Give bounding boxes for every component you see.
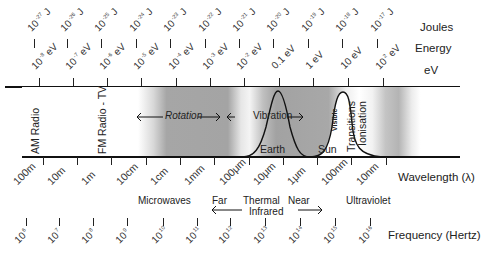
wavelength-tick-label: 1cm [148,164,171,187]
wavelength-tick [180,157,181,165]
frequency-tick-label: 1016 [356,224,377,245]
wavelength-tick [77,157,78,165]
ev-tick [107,78,108,86]
wavelength-tick [317,157,318,165]
ev-tick [176,78,177,86]
frequency-tick-label: 1015 [321,224,342,245]
wavelength-tick [43,157,44,165]
joules-tick-label: 10-24 J [127,6,155,34]
wavelength-tick-label: 1μm [285,164,308,187]
fm-radio-tv-label: FM Radio - TV [96,86,108,154]
rotation-label: Rotation [165,110,202,121]
ev-tick [383,78,384,86]
ionisation-label: Ionisation [356,101,368,146]
joules-tick-label: 10-21 J [230,6,258,34]
frequency-tick [197,218,198,226]
wavelength-tick-label: 10nm [354,160,381,187]
wavelength-tick [386,157,387,165]
frequency-tick [59,218,60,226]
ev-tick [244,78,245,86]
joules-tick-label: 10-26 J [58,6,86,34]
wavelength-tick-label: 10m [45,164,68,187]
frequency-tick-label: 109 [113,227,132,246]
frequency-tick-label: 1012 [216,224,237,245]
sun-label: Sun [318,143,337,155]
frequency-tick-label: 108 [79,227,98,246]
ev-tick [39,78,40,86]
ev-tick-label: 1 eV [303,49,325,71]
energy-axis-label: Energy [415,42,451,54]
frequency-axis-label: Frequency (Hertz) [388,229,481,241]
ev-axis-label: eV [424,64,438,76]
wavelength-tick-label: 100m [11,160,38,187]
joules-tick [308,39,309,48]
wavelength-tick-label: 100μm [217,156,248,187]
spectrum-band [22,87,460,157]
wavelength-tick-label: 1m [79,168,98,187]
frequency-tick [127,218,128,226]
spectrum-shading [22,87,460,157]
ev-tick [348,78,349,86]
frequency-tick [26,218,27,226]
am-radio-label: AM Radio [29,108,41,154]
joules-tick [67,39,68,48]
joules-tick-label: 10-27 J [25,6,53,34]
wavelength-tick-label: 1mm [182,162,207,187]
wavelength-tick-label: 100nm [319,156,350,187]
microwaves-label: Microwaves [138,195,191,206]
wavelength-tick [351,157,352,165]
wavelength-tick-label: 10μm [251,160,278,187]
ev-tick [313,78,314,86]
joules-tick-label: 10-20 J [264,6,292,34]
ev-tick [73,78,74,86]
joules-tick [342,39,343,48]
visible-label: Visible [331,109,338,131]
frequency-tick-label: 1014 [286,224,307,245]
joules-tick [101,39,102,48]
joules-tick [205,39,206,48]
frequency-tick [93,218,94,226]
joules-tick-label: 10-22 J [196,6,224,34]
joules-axis-label: Joules [420,21,453,33]
ev-tick [210,78,211,86]
wavelength-tick [283,157,284,165]
ev-tick [141,78,142,86]
joules-tick-label: 10-23 J [161,6,189,34]
infrared-arrow [210,205,330,215]
ultraviolet-label: Ultraviolet [346,195,390,206]
vibration-label: Vibration [253,110,292,121]
wavelength-axis-label: Wavelength (λ) [398,171,475,183]
frequency-tick-label: 106 [12,227,31,246]
joules-tick [34,39,35,48]
wavelength-tick [214,157,215,165]
ev-tick [279,78,280,86]
ev-tick-label: 10 eV [338,45,364,71]
wavelength-tick-label: 10cm [114,160,141,187]
joules-tick-label: 10-18 J [333,6,361,34]
wavelength-tick [249,157,250,165]
joules-tick [170,39,171,48]
joules-tick [377,39,378,48]
wavelength-tick [111,157,112,165]
frequency-tick-label: 1010 [149,224,170,245]
frequency-tick-label: 1011 [183,225,204,246]
joules-tick [273,39,274,48]
frequency-tick-label: 107 [45,227,64,246]
joules-tick [239,39,240,48]
earth-label: Earth [260,143,285,155]
joules-tick-label: 10-25 J [92,6,120,34]
wavelength-tick [146,157,147,165]
frequency-tick-label: 1013 [251,224,272,245]
joules-tick-label: 10-17 J [368,6,396,34]
joules-tick-label: 10-19 J [299,6,327,34]
joules-tick [136,39,137,48]
